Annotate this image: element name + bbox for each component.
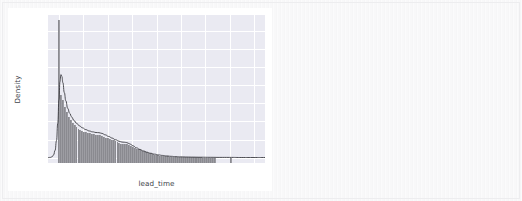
plot-axes: 0.0000.0020.0040.0060.0080.0100.0120.014… [48, 15, 265, 163]
screenshot-canvas: Density 0.0000.0020.0040.0060.0080.0100.… [0, 0, 522, 201]
y-axis-label-text: Density [13, 75, 22, 103]
data-layer [48, 15, 265, 163]
kde-curve [48, 15, 265, 163]
y-axis-label: Density [12, 15, 23, 163]
x-axis-label: lead_time [48, 179, 265, 188]
matplotlib-figure: Density 0.0000.0020.0040.0060.0080.0100.… [8, 8, 272, 191]
